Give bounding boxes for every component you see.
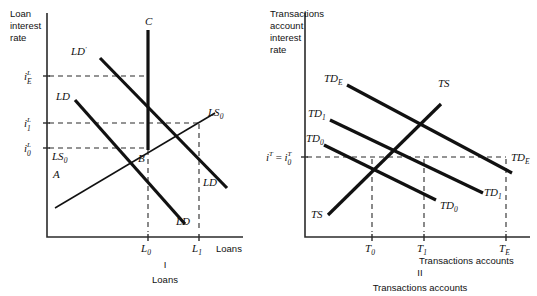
curve-label-TS-upper-right: TS [438, 77, 450, 89]
economics-diagram: Loan interest rate iLE iL1 iL0 L0 L1 Loa… [0, 0, 537, 296]
curve-label-TDE-upper-left: TDE [324, 72, 343, 87]
curve-label-TDE-right: TDE [511, 151, 530, 166]
left-caption-title: Loans [152, 274, 178, 285]
curve-label-LD-prime-lower-right: LD' [202, 176, 219, 188]
ytick-label-iT0: iT=iT0 [266, 150, 292, 167]
point-label-B: B [138, 152, 145, 164]
curve-LD-prime [100, 58, 227, 188]
curve-TD0 [324, 145, 436, 200]
point-label-A: A [52, 168, 60, 180]
curve-label-TD1-upper-left: TD1 [308, 107, 326, 122]
left-y-axis-label-line1: Loan [10, 8, 31, 19]
curve-label-LS0-lower-left: LS0 [51, 150, 68, 165]
xtick-label-T0: T0 [365, 242, 375, 257]
curve-label-TD1-right: TD1 [484, 186, 502, 201]
curve-label-LS0-upper-right: LS0 [207, 106, 224, 121]
point-label-C: C [145, 15, 153, 27]
right-y-axis-label-line2: account [270, 20, 304, 31]
curve-label-TD0-right: TD0 [440, 199, 458, 214]
left-y-axis-label-line2: interest [10, 20, 42, 31]
left-caption-number: I [164, 259, 167, 270]
curve-label-TD0-upper-left: TD0 [306, 132, 324, 147]
right-caption-number: II [417, 267, 422, 278]
panel-right: Transactions account interest rate iT=iT… [266, 8, 530, 293]
curve-LD [75, 100, 185, 224]
left-y-axis-label-line3: rate [10, 32, 26, 43]
figure-root: Loan interest rate iLE iL1 iL0 L0 L1 Loa… [0, 0, 537, 296]
xtick-label-L1: L1 [191, 242, 202, 257]
ytick-label-iL1: iL1 [24, 116, 31, 133]
curve-label-LD-upper: LD [55, 90, 70, 102]
right-x-axis-label: Transactions accounts [419, 255, 514, 266]
ytick-label-iL0: iL0 [24, 141, 31, 158]
curve-label-TS-lower-left: TS [311, 208, 323, 220]
right-y-axis-label-line3: interest [270, 32, 302, 43]
panel-left: Loan interest rate iLE iL1 iL0 L0 L1 Loa… [10, 8, 243, 285]
curve-label-LD-lower-right: LD [175, 215, 190, 227]
right-y-axis-label-line4: rate [270, 44, 286, 55]
right-caption-title: Transactions accounts [373, 282, 468, 293]
curve-label-LD-prime-upper: LD' [70, 45, 87, 57]
ytick-label-iLE: iLE [24, 69, 32, 86]
curve-LS0 [55, 113, 215, 208]
xtick-label-L0: L0 [140, 242, 151, 257]
left-x-axis-label: Loans [216, 243, 242, 254]
right-y-axis-label-line1: Transactions [270, 8, 324, 19]
